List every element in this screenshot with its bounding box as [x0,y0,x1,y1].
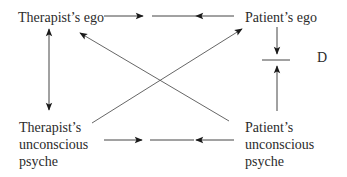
diagram-connectors [0,0,347,177]
arrow-patient-unconscious-to-therapist-ego [80,33,229,121]
barrier-d [262,27,290,111]
arrow-therapist-unconscious-to-patient-ego [92,29,242,123]
therapist-patient-diagram: Therapist’s ego Patient’s ego Therapist’… [0,0,347,177]
